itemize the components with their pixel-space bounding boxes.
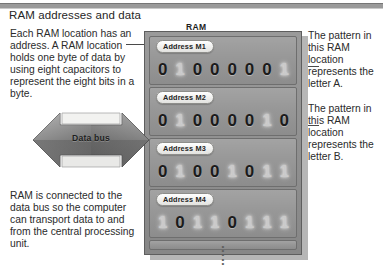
bit: 0 [224, 112, 241, 129]
byte-bits: 0 1 0 0 0 0 1 0 [154, 108, 293, 132]
bit: 0 [189, 112, 206, 129]
byte-bits: 0 1 0 0 0 0 0 1 [154, 57, 293, 81]
bit: 1 [258, 214, 275, 231]
bit: 0 [276, 112, 293, 129]
bit: 1 [276, 163, 293, 180]
byte-bits: 0 1 0 0 1 0 1 1 [154, 159, 293, 183]
bit: 1 [171, 61, 188, 78]
bit: 0 [206, 61, 223, 78]
bit: 0 [171, 214, 188, 231]
bit: 0 [258, 61, 275, 78]
ram-location-row[interactable]: Address M4 1 0 1 1 0 1 1 1 [149, 189, 297, 238]
bit: 0 [241, 112, 258, 129]
bit: 0 [189, 61, 206, 78]
address-label: Address M3 [156, 142, 214, 155]
ram-diagram-figure: RAM addresses and data RAM Each RAM loca… [0, 0, 383, 267]
bit: 0 [241, 61, 258, 78]
annotation-right-letter-a: The pattern in this RAM location represe… [308, 30, 382, 90]
bit: 1 [258, 163, 275, 180]
annotation-right-letter-b: The pattern in this RAM location represe… [308, 103, 382, 163]
address-label: Address M1 [156, 40, 214, 53]
bit: 0 [224, 214, 241, 231]
annotation-bottom-left: RAM is connected to the data bus so the … [10, 190, 140, 250]
bit: 0 [224, 61, 241, 78]
bit: 0 [189, 163, 206, 180]
ram-location-row[interactable]: Address M1 0 1 0 0 0 0 0 1 [149, 36, 297, 85]
annotation-top-left: Each RAM location has an address. A RAM … [10, 28, 138, 101]
bit: 1 [154, 214, 171, 231]
page-title: RAM addresses and data [9, 9, 141, 21]
bit: 1 [171, 112, 188, 129]
bit: 0 [154, 163, 171, 180]
ram-location-list: Address M1 0 1 0 0 0 0 0 1 Address M2 0 … [149, 36, 297, 250]
bit: 1 [224, 163, 241, 180]
bit: 1 [206, 214, 223, 231]
data-bus-arrow-shape [33, 103, 149, 177]
bit: 1 [189, 214, 206, 231]
bit: 0 [241, 163, 258, 180]
bit: 0 [206, 163, 223, 180]
ram-location-row[interactable]: Address M2 0 1 0 0 0 0 1 0 [149, 87, 297, 136]
bit: 0 [154, 112, 171, 129]
ram-location-row[interactable]: Address M3 0 1 0 0 1 0 1 1 [149, 138, 297, 187]
address-label: Address M4 [156, 193, 214, 206]
bit: 1 [171, 163, 188, 180]
address-label: Address M2 [156, 91, 214, 104]
data-bus-arrow: Data bus [33, 103, 149, 177]
bit: 1 [276, 61, 293, 78]
vertical-ellipsis-icon: ••••• [150, 245, 296, 266]
leader-line-top-left [126, 44, 145, 45]
bit: 1 [258, 112, 275, 129]
bit: 0 [206, 112, 223, 129]
bit: 1 [241, 214, 258, 231]
bit: 1 [276, 214, 293, 231]
ram-location-continuation: ••••• [149, 240, 297, 250]
byte-bits: 1 0 1 1 0 1 1 1 [154, 210, 293, 234]
bit: 0 [154, 61, 171, 78]
ram-module: Address M1 0 1 0 0 0 0 0 1 Address M2 0 … [144, 31, 302, 255]
